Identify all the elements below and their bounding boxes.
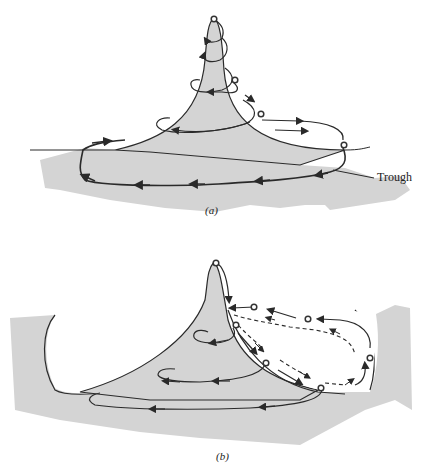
panel-a-peak [115,18,345,165]
marker-circle [213,260,219,266]
panel-b-label: (b) [216,450,229,462]
trough-label: Trough [377,170,412,185]
figure-canvas [0,0,425,475]
marker-circle [232,77,238,83]
panel-b [10,260,412,445]
marker-circle [251,304,257,310]
marker-circle [211,16,217,22]
marker-circle [233,322,239,328]
marker-circle [367,355,373,361]
marker-circle [263,360,269,366]
marker-circle [258,111,264,117]
panel-a [30,16,410,212]
marker-circle [341,142,347,148]
marker-circle [305,316,311,322]
marker-circle [318,385,324,391]
panel-a-label: (a) [205,204,218,216]
